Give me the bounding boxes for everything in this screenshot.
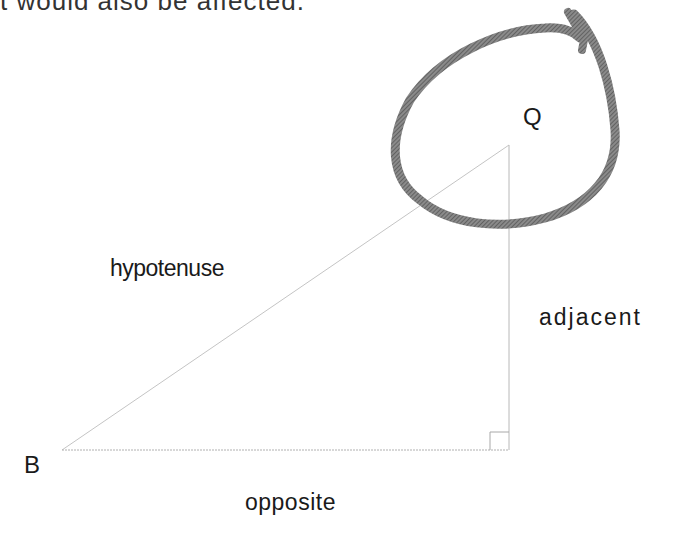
point-b-label: B — [24, 451, 40, 479]
right-angle-marker — [490, 432, 509, 450]
hypotenuse-label: hypotenuse — [110, 255, 224, 282]
triangle-diagram — [0, 0, 681, 533]
point-q-label: Q — [523, 103, 542, 131]
opposite-label: opposite — [245, 489, 336, 516]
adjacent-label: adjacent — [539, 304, 642, 331]
hypotenuse-line — [62, 145, 509, 450]
